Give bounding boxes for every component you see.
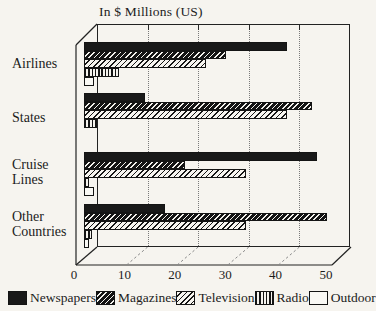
bar-cruise-lines-magazines (84, 161, 185, 170)
bar-cruise-lines-newspapers (84, 152, 317, 161)
legend-swatch-television (176, 291, 195, 305)
legend-item-television: Television (176, 290, 254, 306)
top-tick-20 (198, 25, 199, 30)
legend-swatch-outdoor (309, 291, 328, 305)
legend-item-radio: Radio (255, 290, 309, 306)
category-label-other-countries: Other Countries (12, 209, 66, 239)
bar-airlines-magazines (84, 51, 226, 60)
category-label-cruise-lines: Cruise Lines (12, 157, 49, 187)
legend-label-television: Television (198, 290, 254, 306)
top-tick-40 (299, 25, 300, 30)
bar-states-magazines (84, 102, 312, 111)
bar-states-television (84, 110, 287, 119)
legend: NewspapersMagazinesTelevisionRadioOutdoo… (8, 289, 360, 307)
top-tick-30 (249, 25, 250, 30)
x-tick-label-0: 0 (61, 267, 87, 283)
bar-cruise-lines-television (84, 169, 246, 178)
bar-airlines-television (84, 59, 206, 68)
bar-other-countries-television (84, 221, 246, 230)
legend-item-newspapers: Newspapers (8, 290, 96, 306)
bar-other-countries-radio (84, 230, 92, 239)
x-tick-label-30: 30 (212, 267, 238, 283)
legend-item-outdoor: Outdoor (309, 290, 376, 306)
floor-left-edge (76, 247, 97, 265)
bar-states-newspapers (84, 93, 145, 102)
floor-tick-30 (228, 247, 249, 265)
top-tick-10 (148, 25, 149, 30)
bar-airlines-outdoor (84, 77, 94, 86)
bar-other-countries-magazines (84, 213, 327, 222)
x-tick-label-10: 10 (111, 267, 137, 283)
legend-swatch-magazines (96, 291, 115, 305)
legend-label-newspapers: Newspapers (30, 290, 96, 306)
floor-right-edge (332, 247, 351, 265)
bar-other-countries-newspapers (84, 204, 165, 213)
legend-item-magazines: Magazines (96, 290, 176, 306)
x-tick-label-50: 50 (313, 267, 339, 283)
bar-airlines-radio (84, 68, 119, 77)
bar-cruise-lines-radio (84, 178, 89, 187)
legend-swatch-radio (255, 291, 274, 305)
chart-title: In $ Millions (US) (99, 4, 203, 20)
bar-airlines-newspapers (84, 42, 287, 51)
legend-swatch-newspapers (8, 291, 27, 305)
legend-label-magazines: Magazines (118, 290, 176, 306)
category-label-airlines: Airlines (12, 56, 57, 71)
bar-other-countries-outdoor (84, 239, 89, 248)
legend-label-radio: Radio (277, 290, 309, 306)
x-tick-label-20: 20 (162, 267, 188, 283)
category-label-states: States (12, 110, 45, 125)
x-tick-label-40: 40 (263, 267, 289, 283)
bar-states-radio (84, 119, 97, 128)
floor-tick-10 (127, 247, 148, 265)
bar-cruise-lines-outdoor (84, 187, 94, 196)
floor-tick-20 (177, 247, 198, 265)
floor-tick-40 (278, 247, 299, 265)
legend-label-outdoor: Outdoor (331, 290, 376, 306)
